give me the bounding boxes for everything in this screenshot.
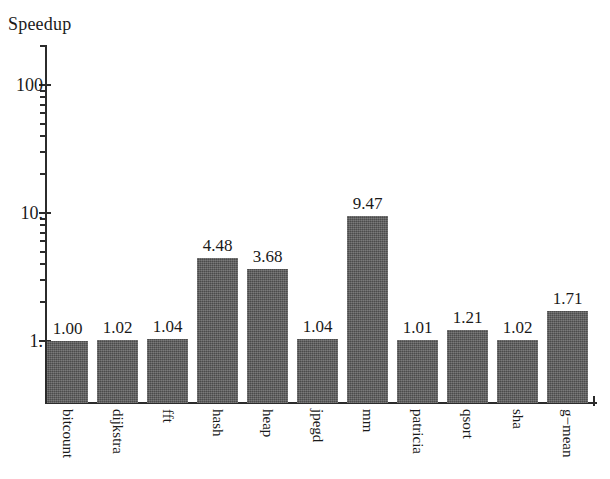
category-label-dijkstra: dijkstra — [110, 409, 125, 454]
y-axis-minor-tick — [40, 104, 47, 106]
y-axis-minor-tick — [40, 240, 47, 242]
category-label-hash: hash — [210, 409, 225, 437]
bar-hash — [197, 258, 238, 403]
bar-jpegd — [297, 339, 338, 403]
bar-mm — [347, 216, 388, 403]
bar-patricia — [397, 340, 438, 403]
bar-value-label: 1.71 — [538, 290, 597, 307]
category-label-sha: sha — [510, 409, 525, 429]
y-axis-minor-tick — [40, 301, 47, 303]
bar-value-label: 9.47 — [338, 195, 397, 212]
speedup-bar-chart: Speedup 10010.1. 1.001.021.044.483.681.0… — [0, 0, 610, 479]
y-axis-minor-tick — [40, 135, 47, 137]
bar-qsort — [447, 330, 488, 403]
bar-fft — [147, 339, 188, 403]
category-label-fft: fft — [160, 409, 175, 423]
bar-value-label: 1.04 — [138, 318, 197, 335]
category-label-mm: mm — [360, 409, 375, 432]
x-axis-end-tick — [593, 396, 595, 406]
y-axis-minor-tick — [40, 123, 47, 125]
bar-dijkstra — [97, 340, 138, 403]
y-axis-minor-tick — [40, 224, 47, 226]
y-axis-minor-tick — [40, 232, 47, 234]
category-label-jpegd: jpegd — [310, 409, 325, 442]
bar-value-label: 1.04 — [288, 318, 347, 335]
y-axis-minor-tick — [40, 279, 47, 281]
y-axis-minor-tick — [40, 96, 47, 98]
bar-heap — [247, 269, 288, 403]
category-label-qsort: qsort — [460, 409, 475, 439]
category-label-patricia: patricia — [410, 409, 425, 454]
category-label-g-mean: g−mean — [560, 409, 575, 457]
bar-value-label: 3.68 — [238, 248, 297, 265]
y-axis-minor-tick — [40, 45, 47, 47]
y-axis-minor-tick — [40, 251, 47, 253]
y-axis-minor-tick — [40, 173, 47, 175]
y-axis-tick-label: 10. — [21, 204, 44, 222]
chart-title: Speedup — [8, 14, 71, 35]
bar-value-label: 1.02 — [488, 319, 547, 336]
bar-g-mean — [547, 311, 588, 403]
y-axis-minor-tick — [40, 112, 47, 114]
y-axis-minor-tick — [40, 263, 47, 265]
y-axis-minor-tick — [40, 151, 47, 153]
bar-sha — [497, 340, 538, 403]
category-label-bitcount: bitcount — [60, 409, 75, 458]
y-axis-tick-label: 100 — [16, 76, 43, 94]
bar-bitcount — [47, 341, 88, 403]
category-label-heap: heap — [260, 409, 275, 437]
